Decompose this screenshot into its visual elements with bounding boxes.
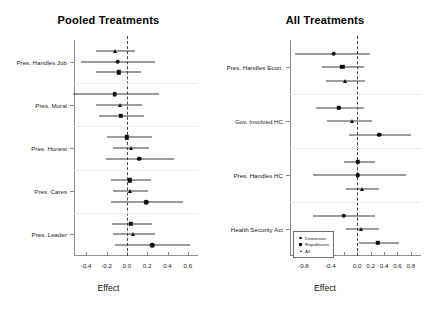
x-tick-label: -0.8 [298, 262, 309, 269]
data-point-marker-circle [137, 157, 142, 162]
data-point-marker-circle [112, 92, 117, 97]
x-axis-title-left: Effect [0, 283, 217, 293]
legend-item: All [297, 248, 329, 254]
x-tick [411, 252, 412, 256]
x-tick-label: -0.4 [81, 262, 92, 269]
plot-area-right: -0.8-0.40.00.20.40.60.8Pres. Handles Eco… [290, 40, 421, 256]
x-tick [107, 252, 108, 256]
data-point-marker-square [125, 135, 129, 139]
panel-title-right: All Treatments [217, 14, 433, 26]
data-point-marker-triangle [113, 49, 117, 53]
legend-marker-triangle-icon [297, 250, 304, 252]
data-point-marker-circle [377, 132, 382, 137]
data-point-marker-triangle [359, 227, 363, 231]
data-point-marker-square [117, 70, 121, 74]
x-tick-label: 0.2 [143, 262, 152, 269]
data-point-marker-square [376, 240, 380, 244]
group-separator [290, 94, 421, 95]
y-axis-category-label: Pres. Honest [31, 145, 67, 152]
x-axis-left [74, 255, 198, 256]
legend: DemocratsRepublicansAll [293, 231, 334, 258]
x-tick-label: 0.0 [123, 262, 132, 269]
data-point-marker-circle [115, 59, 120, 64]
data-point-marker-triangle [129, 146, 133, 150]
y-axis-category-label: Pres. Handles HC [233, 172, 283, 179]
y-axis-category-label: Pres. Handles Job [16, 58, 67, 65]
panel-pooled-treatments: Pooled Treatments -0.4-0.20.00.20.40.6Pr… [0, 0, 217, 315]
data-point-marker-square [356, 159, 360, 163]
data-point-marker-circle [150, 243, 155, 248]
group-separator [74, 213, 198, 214]
group-separator [290, 202, 421, 203]
y-tick [70, 62, 74, 63]
data-point-marker-triangle [360, 187, 364, 191]
plot-area-left: -0.4-0.20.00.20.40.6Pres. Handles JobPre… [74, 40, 198, 256]
legend-label: All [305, 249, 310, 254]
data-point-marker-square [119, 113, 123, 117]
legend-label: Democrats [305, 236, 326, 241]
x-tick-label: -0.4 [325, 262, 336, 269]
y-tick [70, 191, 74, 192]
y-axis-category-label: Pres. Leader [32, 231, 67, 238]
legend-item: Democrats [297, 235, 329, 241]
y-axis-category-label: Gov. Involved HC [235, 118, 283, 125]
x-tick [147, 252, 148, 256]
x-tick-label: -0.2 [101, 262, 112, 269]
x-tick [168, 252, 169, 256]
x-tick-label: 0.6 [184, 262, 193, 269]
x-tick-label: 0.6 [393, 262, 402, 269]
x-tick-label: 0.8 [407, 262, 416, 269]
y-tick [70, 148, 74, 149]
y-axis-category-label: Pres. Handles Econ. [227, 64, 283, 71]
x-tick [344, 252, 345, 256]
y-tick [70, 234, 74, 235]
group-separator [74, 126, 198, 127]
y-axis-category-label: Health Security Act [231, 226, 283, 233]
data-point-marker-square [337, 105, 341, 109]
data-point-marker-circle [331, 51, 336, 56]
group-separator [74, 170, 198, 171]
panel-all-treatments: All Treatments -0.8-0.40.00.20.40.60.8Pr… [217, 0, 433, 315]
legend-item: Republicans [297, 242, 329, 248]
forest-plot-figure: Pooled Treatments -0.4-0.20.00.20.40.6Pr… [0, 0, 433, 315]
confidence-interval-line [327, 121, 372, 122]
data-point-marker-circle [356, 173, 361, 178]
x-tick-label: 0.0 [353, 262, 362, 269]
group-separator [74, 83, 198, 84]
y-tick [286, 67, 290, 68]
data-point-marker-square [340, 65, 344, 69]
legend-marker-square-icon [297, 243, 304, 246]
x-axis-title-right: Effect [217, 283, 433, 293]
panel-title-left: Pooled Treatments [0, 14, 217, 26]
data-point-marker-square [129, 221, 133, 225]
legend-marker-circle-icon [297, 237, 304, 240]
x-tick-label: 0.2 [366, 262, 375, 269]
data-point-marker-triangle [350, 119, 354, 123]
y-tick [286, 121, 290, 122]
data-point-marker-triangle [131, 232, 135, 236]
data-point-marker-triangle [343, 79, 347, 83]
data-point-marker-triangle [128, 189, 132, 193]
zero-reference-line [357, 36, 358, 256]
x-tick [188, 252, 189, 256]
x-tick [371, 252, 372, 256]
y-tick [70, 105, 74, 106]
data-point-marker-triangle [118, 103, 122, 107]
legend-label: Republicans [305, 242, 329, 247]
x-tick-label: 0.4 [380, 262, 389, 269]
y-tick [286, 229, 290, 230]
y-tick [286, 175, 290, 176]
data-point-marker-square [128, 178, 132, 182]
y-axis-category-label: Pres. Moral [35, 101, 67, 108]
y-axis-category-label: Pres. Cares [34, 188, 67, 195]
x-tick [397, 252, 398, 256]
group-separator [290, 148, 421, 149]
confidence-interval-line [107, 137, 153, 138]
y-axis-left [74, 40, 75, 256]
data-point-marker-circle [341, 213, 346, 218]
x-tick [384, 252, 385, 256]
x-tick [86, 252, 87, 256]
data-point-marker-circle [144, 200, 149, 205]
x-tick-label: 0.4 [163, 262, 172, 269]
